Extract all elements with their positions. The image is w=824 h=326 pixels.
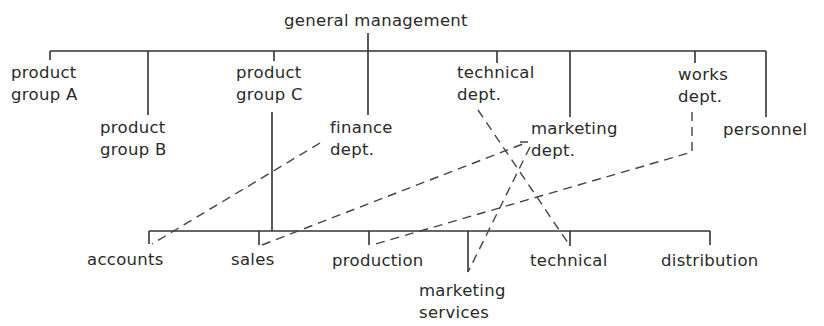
label-technical: technical <box>530 250 608 272</box>
label-distribution: distribution <box>661 250 759 272</box>
label-line: dept. <box>457 84 535 106</box>
label-line: accounts <box>87 249 164 271</box>
label-production: production <box>332 250 424 272</box>
dashed-finance-accounts <box>152 143 320 244</box>
label-line: works <box>678 64 728 86</box>
label-product-group-a: product group A <box>11 62 78 106</box>
label-text: general management <box>284 10 468 32</box>
label-line: dept. <box>678 86 728 108</box>
label-line: dept. <box>330 139 393 161</box>
label-line: group B <box>100 139 167 161</box>
label-line: marketing <box>531 118 618 140</box>
label-line: finance <box>330 117 393 139</box>
label-finance-dept: finance dept. <box>330 117 393 161</box>
label-line: group A <box>11 84 78 106</box>
label-marketing-services: marketing services <box>419 280 506 324</box>
label-line: product <box>236 62 303 84</box>
label-line: technical <box>457 62 535 84</box>
label-line: technical <box>530 250 608 272</box>
label-line: group C <box>236 84 303 106</box>
label-marketing-dept: marketing dept. <box>531 118 618 162</box>
label-line: production <box>332 250 424 272</box>
dashed-marketing-services <box>468 147 530 272</box>
label-technical-dept: technical dept. <box>457 62 535 106</box>
label-line: services <box>419 302 506 324</box>
label-line: distribution <box>661 250 759 272</box>
dashed-marketing-sales <box>262 142 528 245</box>
label-general-management: general management <box>284 10 468 32</box>
label-personnel: personnel <box>723 119 807 141</box>
label-sales: sales <box>231 249 275 271</box>
label-line: personnel <box>723 119 807 141</box>
label-works-dept: works dept. <box>678 64 728 108</box>
label-line: marketing <box>419 280 506 302</box>
connector-lines <box>0 0 824 326</box>
label-line: product <box>11 62 78 84</box>
label-line: sales <box>231 249 275 271</box>
label-product-group-b: product group B <box>100 117 167 161</box>
label-accounts: accounts <box>87 249 164 271</box>
label-line: dept. <box>531 140 618 162</box>
org-chart: general management product group A produ… <box>0 0 824 326</box>
label-line: product <box>100 117 167 139</box>
label-product-group-c: product group C <box>236 62 303 106</box>
